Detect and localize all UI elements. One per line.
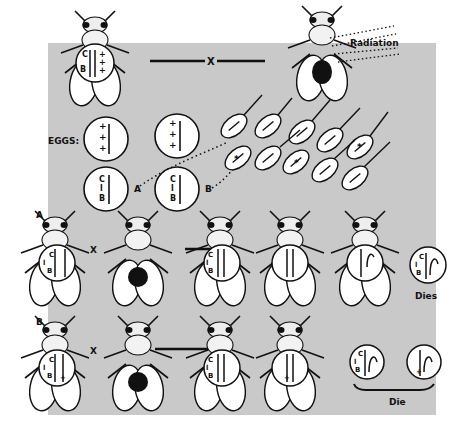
svg-text:C: C bbox=[208, 356, 213, 364]
egg-clb-b: ClB bbox=[155, 167, 199, 211]
svg-text:l: l bbox=[171, 184, 174, 193]
die-label: Die bbox=[389, 397, 406, 407]
svg-text:l: l bbox=[415, 261, 417, 269]
svg-text:B: B bbox=[208, 372, 213, 380]
row-b-die-chromosome-2: + bbox=[407, 345, 441, 379]
parent-female-fly: C B + + + bbox=[61, 11, 129, 108]
egg-clb-a: ClB bbox=[84, 167, 128, 211]
egg-plus-1: +++ bbox=[84, 117, 128, 161]
radiation-label: Radiation bbox=[350, 38, 399, 48]
row-b-offspring-mutant: + bbox=[256, 316, 324, 413]
svg-text:+: + bbox=[99, 66, 106, 75]
svg-text:l: l bbox=[354, 358, 356, 366]
svg-text:l: l bbox=[206, 259, 208, 267]
svg-text:C: C bbox=[208, 251, 213, 259]
row-a-cross-symbol: X bbox=[90, 245, 97, 255]
row-a-female-fly: ClB bbox=[21, 211, 89, 308]
svg-text:*: * bbox=[294, 158, 299, 168]
svg-text:l: l bbox=[43, 259, 45, 267]
svg-text:l: l bbox=[100, 184, 103, 193]
sperm-cluster bbox=[217, 95, 390, 195]
svg-text:C: C bbox=[49, 251, 54, 259]
svg-text:+: + bbox=[284, 374, 290, 382]
svg-text:B: B bbox=[47, 372, 52, 380]
svg-text:B: B bbox=[208, 267, 213, 275]
svg-text:+: + bbox=[169, 118, 177, 128]
egg-plus-2: +++ bbox=[155, 114, 199, 158]
genetics-diagram: C B + + + X Radiation EGGS: +++ +++ ClB bbox=[0, 0, 464, 429]
svg-text:*: * bbox=[234, 154, 239, 164]
svg-text:+: + bbox=[99, 132, 107, 142]
svg-text:+: + bbox=[169, 140, 177, 150]
parent-male-fly bbox=[288, 6, 356, 103]
row-a-male-fly bbox=[104, 211, 172, 308]
row-a-offspring-lethal bbox=[331, 211, 399, 308]
svg-text:B: B bbox=[355, 366, 360, 374]
svg-text:+: + bbox=[169, 129, 177, 139]
row-a-offspring-clb: ClB bbox=[186, 211, 254, 308]
svg-text:B: B bbox=[47, 267, 52, 275]
svg-text:+: + bbox=[60, 374, 66, 382]
svg-text:C: C bbox=[358, 350, 363, 358]
svg-text:+: + bbox=[99, 143, 107, 153]
row-b-female-fly: + ClB bbox=[21, 316, 89, 413]
svg-text:C: C bbox=[99, 175, 105, 184]
row-b-cross-symbol: X bbox=[90, 346, 97, 356]
row-b-die-chromosome-1: ClB bbox=[350, 345, 384, 379]
svg-text:B: B bbox=[416, 269, 421, 277]
row-a-offspring-normal bbox=[256, 211, 324, 308]
die-bracket bbox=[354, 384, 434, 390]
row-a-dies-chromosome: ClB bbox=[410, 247, 446, 283]
b-label: B bbox=[80, 65, 86, 74]
svg-text:C: C bbox=[170, 175, 176, 184]
c-label: C bbox=[82, 50, 88, 59]
svg-text:+: + bbox=[416, 368, 422, 376]
row-b-male-fly bbox=[104, 316, 172, 413]
row-b-offspring-clb: ClB bbox=[186, 316, 254, 413]
svg-text:*: * bbox=[357, 142, 362, 152]
svg-text:+: + bbox=[99, 121, 107, 131]
cross-symbol: X bbox=[207, 56, 215, 67]
eggs-label: EGGS: bbox=[48, 136, 79, 146]
svg-text:l: l bbox=[43, 364, 45, 372]
svg-text:B: B bbox=[99, 194, 105, 203]
svg-text:C: C bbox=[49, 356, 54, 364]
svg-text:C: C bbox=[419, 253, 424, 261]
dies-label: Dies bbox=[415, 291, 437, 301]
svg-text:l: l bbox=[206, 364, 208, 372]
svg-text:B: B bbox=[170, 194, 176, 203]
egg-b-label: B bbox=[205, 184, 212, 194]
